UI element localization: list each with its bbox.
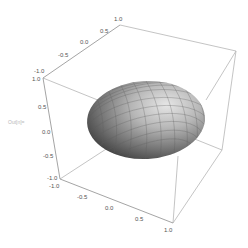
- vertical-axis-tick: 0.0: [42, 129, 51, 135]
- bottom-axis-tick: 1.0: [164, 227, 173, 233]
- bottom-axis-tick: 0.5: [135, 216, 144, 222]
- vertical-axis-tick: -0.5: [43, 153, 54, 159]
- top-axis-tick: 0.0: [80, 39, 89, 45]
- bottom-axis-tick: -1.0: [49, 183, 60, 189]
- ellipsoid-surface: [85, 78, 207, 162]
- top-axis-tick: 1.0: [114, 16, 123, 22]
- bottom-axis-tick: 0.0: [105, 205, 114, 211]
- top-axis-tick: -0.5: [58, 52, 69, 58]
- ellipsoid-3d-plot[interactable]: -1.0 -0.5 0.0 0.5 1.0 1.0 0.5 0.0 -0.5 -…: [0, 0, 248, 248]
- top-axis-tick: -1.0: [34, 68, 45, 74]
- vertical-axis-tick: 1.0: [32, 76, 41, 82]
- top-axis-tick: 0.5: [100, 28, 109, 34]
- vertical-axis-tick: -1.0: [47, 175, 58, 181]
- top-axis-ticks: -1.0 -0.5 0.0 0.5 1.0: [34, 16, 123, 74]
- bottom-axis-tick: -0.5: [77, 194, 88, 200]
- bottom-axis-ticks: -1.0 -0.5 0.0 0.5 1.0: [49, 183, 173, 233]
- vertical-axis-tick: 0.5: [38, 104, 47, 110]
